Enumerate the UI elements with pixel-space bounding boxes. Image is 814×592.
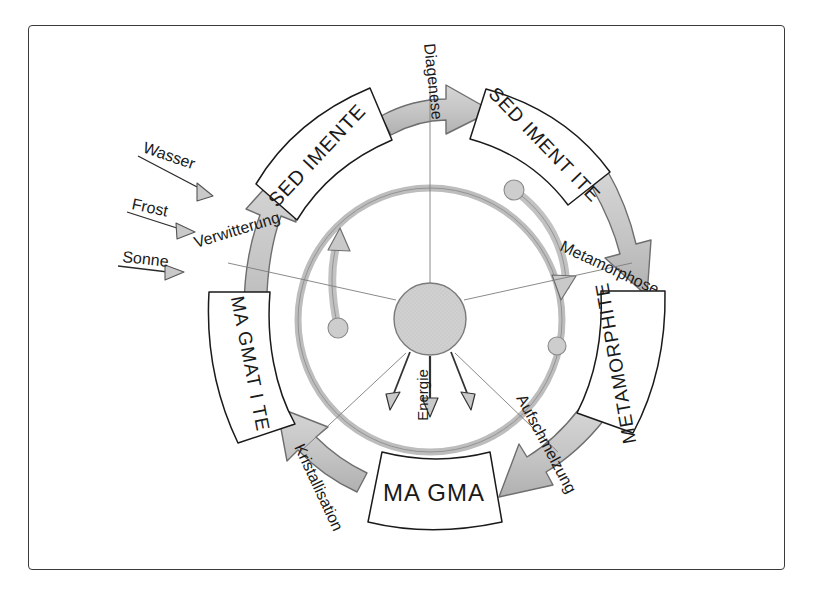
box-sedimentite: SED IMENT ITE: [470, 83, 610, 206]
inner-arc-arrow-left: [328, 228, 350, 338]
input-label-sonne: Sonne: [122, 248, 170, 270]
diagram-canvas: Energie Wasser Frost Sonne Verwitterung …: [0, 0, 814, 592]
box-magmatite: MA GMAT I TE: [208, 292, 295, 443]
box-magma: MA GMA: [368, 452, 502, 530]
inner-arc-knob-bottom-left: [328, 318, 348, 338]
inner-arc-knob-top-right: [504, 180, 524, 200]
energy-core: [394, 283, 466, 355]
rock-cycle-diagram: Energie Wasser Frost Sonne Verwitterung …: [0, 0, 814, 592]
energy-label: Energie: [414, 369, 431, 421]
outer-ring-knob-right: [548, 337, 566, 355]
input-label-frost: Frost: [130, 195, 170, 219]
input-label-wasser: Wasser: [141, 139, 198, 173]
box-label-magma: MA GMA: [383, 479, 485, 506]
